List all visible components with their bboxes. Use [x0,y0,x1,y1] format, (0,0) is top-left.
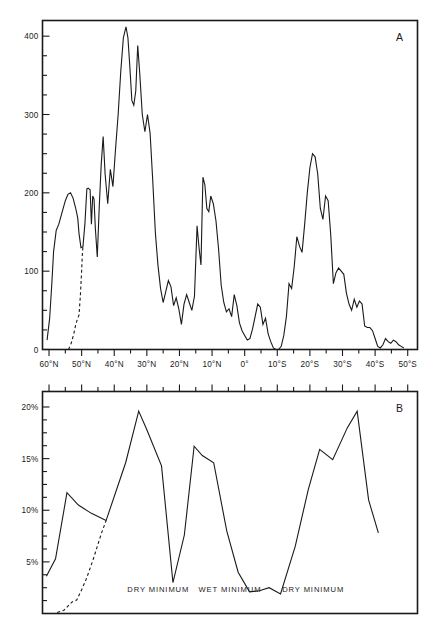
x-axis-tick-label: 50°N [72,360,91,369]
x-axis-tick-label: 50°S [398,360,417,369]
x-axis-tick-label: 30°N [137,360,156,369]
panel-a-y-tick-label: 300 [24,111,39,120]
panel-a-y-tick-label: 200 [24,189,39,198]
figure-background [0,0,434,621]
panel-a-y-tick-label: 400 [24,32,39,41]
panel-b-annotation: DRY MINIMUM [127,585,189,594]
x-axis-tick-label: 0° [241,360,249,369]
x-axis-tick-label: 40°N [105,360,124,369]
panel-a-letter: A [396,31,403,43]
x-axis-tick-label: 20°S [301,360,320,369]
x-axis-tick-label: 20°N [170,360,189,369]
panel-b-y-tick-label: 10% [22,506,39,515]
panel-a-y-tick-label: 100 [24,267,39,276]
x-axis-tick-label: 10°N [203,360,222,369]
figure-root: 0100200300400 A 60°N50°N40°N30°N20°N10°N… [0,0,434,621]
panel-b-annotation: WET MINIMUM [199,585,262,594]
panel-b-annotations: DRY MINIMUMWET MINIMUMDRY MINIMUM [127,585,344,594]
x-axis-tick-label: 10°S [268,360,287,369]
panel-b-y-tick-label: 15% [22,455,39,464]
panel-b-y-tick-label: 5% [26,558,38,567]
x-axis-tick-label: 40°S [366,360,385,369]
panel-a-y-tick-label: 0 [34,346,39,355]
panel-b-annotation: DRY MINIMUM [282,585,344,594]
panel-b-letter: B [396,402,403,414]
x-axis-tick-label: 60°N [39,360,58,369]
x-axis-tick-label: 30°S [333,360,352,369]
panel-b-y-tick-label: 20% [22,403,39,412]
